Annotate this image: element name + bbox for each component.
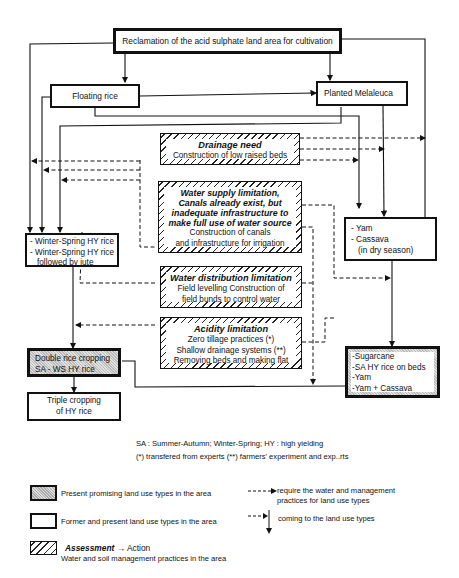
yam-cassava-box: - Yam - Cassava (in dry season)	[344, 217, 437, 261]
water-distribution-action-1: Field levelling Construction of	[168, 284, 294, 295]
sc-line-1: -Sugarcane	[352, 352, 433, 363]
legend-coming-label: coming to the land use types	[278, 514, 375, 524]
water-supply-action-2: and infrastructure for irrigation	[166, 239, 294, 250]
legend-shaded-swatch	[30, 485, 57, 501]
floating-rice-box: Floating rice	[50, 84, 140, 108]
assessment-acidity: Acidity limitation Zero tillage practice…	[160, 317, 302, 369]
ws-line-3: followed by jute	[30, 258, 114, 269]
acidity-title: Acidity limitation	[168, 324, 294, 335]
yc-line-3: (in dry season)	[351, 245, 430, 256]
legend-hatched-heading: Assessment → Action	[65, 543, 150, 553]
water-distribution-action-2: field bunds to control water	[168, 295, 294, 306]
legend-shaded-label: Present promising land use types in the …	[61, 489, 211, 499]
legend-action-word: → Action	[117, 543, 151, 553]
legend-dashed-label-1: require the water and management	[277, 486, 395, 496]
acidity-action-2: Shallow drainage systems (**)	[168, 346, 294, 357]
sc-line-4: -Yam + Cassava	[352, 384, 433, 395]
double-rice-box: Double rice cropping SA - WS HY rice	[27, 348, 121, 377]
floating-rice-label: Floating rice	[72, 91, 118, 102]
water-distribution-title: Water distribution limitation	[168, 273, 294, 284]
legend-arrow-icons	[246, 484, 280, 524]
tc-line-2: of HY rice	[56, 407, 92, 418]
acidity-action-1: Zero tillage practices (*)	[168, 335, 294, 346]
sources-note: (*) transfered from experts (**) farmers…	[136, 451, 348, 462]
legend-plain-swatch	[30, 513, 57, 529]
yc-line-1: - Yam	[351, 223, 430, 234]
water-supply-title: Water supply limitation, Canals already …	[166, 188, 294, 228]
planted-melaleuca-label: Planted Melaleuca	[324, 88, 393, 98]
dr-line-2: SA - WS HY rice	[35, 365, 113, 376]
root-box-reclamation: Reclamation of the acid sulphate land ar…	[113, 28, 342, 54]
legend-dashed-label-2: practices for land use types	[277, 496, 369, 506]
sc-line-2: -SA HY rice on beds	[352, 363, 433, 374]
dr-line-1: Double rice cropping	[35, 354, 113, 365]
root-label: Reclamation of the acid sulphate land ar…	[122, 36, 332, 47]
yc-line-2: - Cassava	[351, 234, 430, 245]
water-supply-action-1: Construction of canals	[166, 228, 294, 239]
assessment-water-distribution: Water distribution limitation Field leve…	[160, 266, 302, 308]
tc-line-1: Triple cropping	[47, 396, 101, 407]
legend-plain-label: Former and present land use types in the…	[61, 517, 217, 527]
sugarcane-box: -Sugarcane -SA HY rice on beds -Yam -Yam…	[345, 346, 440, 398]
legend-hatched-sub: Water and soil management practices in t…	[61, 554, 226, 564]
drainage-action: Construction of low raised beds	[168, 151, 292, 162]
acidity-action-3: Removing beds and making flat	[168, 356, 294, 367]
planted-melaleuca-box: Planted Melaleuca	[316, 81, 408, 106]
abbreviation-note: SA : Summer-Autumn; Winter-Spring; HY : …	[136, 438, 323, 449]
legend-assessment-word: Assessment	[65, 543, 114, 553]
legend-hatched-swatch	[30, 541, 57, 555]
drainage-title: Drainage need	[168, 140, 292, 151]
assessment-water-supply: Water supply limitation, Canals already …	[158, 181, 302, 253]
assessment-drainage: Drainage need Construction of low raised…	[160, 133, 300, 165]
winter-spring-box: - Winter-Spring HY rice - Winter-Spring …	[25, 233, 119, 267]
ws-line-2: - Winter-Spring HY rice	[30, 248, 114, 259]
sc-line-3: -Yam	[352, 373, 433, 384]
down-arrow-icon	[265, 510, 273, 536]
triple-cropping-box: Triple cropping of HY rice	[27, 392, 121, 421]
ws-line-1: - Winter-Spring HY rice	[30, 237, 114, 248]
